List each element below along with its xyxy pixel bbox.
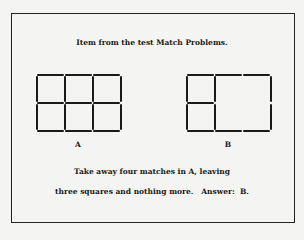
instruction-line-1: Take away four matches in A, leaving (0, 167, 304, 176)
match-grid-a (35, 72, 125, 134)
figure-title: Item from the test Match Problems. (0, 38, 304, 47)
figure-label-a: A (68, 140, 88, 149)
instruction-line-2: three squares and nothing more. Answer: … (0, 187, 304, 196)
match-grid-b (185, 72, 275, 134)
figure-label-b: B (218, 140, 238, 149)
